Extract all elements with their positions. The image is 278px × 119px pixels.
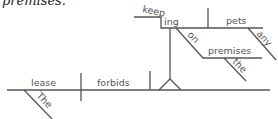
prep-object-modifier-word: the (231, 56, 250, 75)
subject-modifier-word: The (34, 89, 55, 110)
object-modifier-word: any (255, 28, 275, 49)
pedestal (159, 79, 181, 90)
object-word: pets (226, 15, 247, 26)
gerund-suffix-word: ing (164, 16, 179, 27)
preposition-word: on (186, 29, 202, 45)
subject-word: lease (31, 77, 56, 88)
sentence-diagram: lease forbids The keep ing pets any on p… (0, 0, 278, 119)
verb-word: forbids (97, 77, 130, 88)
prep-object-word: premises (208, 45, 251, 56)
